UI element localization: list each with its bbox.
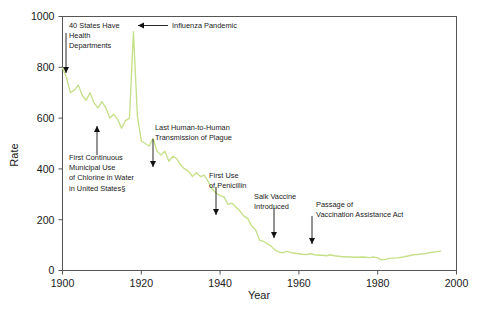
annotation-label: First Continuous: [69, 153, 123, 162]
annotation-label: Passage of: [316, 200, 354, 209]
annotation-layer: 40 States HaveHealthDepartmentsInfluenza…: [63, 21, 403, 244]
annotation-arrowhead: [271, 232, 277, 238]
y-tick-label: 800: [37, 61, 55, 73]
annotation-label: Introduced: [254, 202, 289, 211]
y-tick-label: 0: [49, 264, 55, 276]
y-tick-label: 400: [37, 163, 55, 175]
y-tick-label: 200: [37, 214, 55, 226]
annotation-label: Departments: [69, 41, 112, 50]
annotation-label: Transmission of Plague: [155, 133, 232, 142]
y-tick-label: 600: [37, 112, 55, 124]
annotation-label: First Use: [209, 171, 239, 180]
annotation-chlorine-water: First ContinuousMunicipal Useof Chlorine…: [69, 126, 135, 193]
chart-container: 02004006008001000 1900192019401960198020…: [0, 0, 487, 314]
annotation-label: of Penicillin: [209, 181, 246, 190]
annotation-label: Salk Vaccine: [254, 192, 296, 201]
x-tick-label: 1920: [130, 277, 154, 289]
x-axis: 190019201940196019802000: [51, 271, 469, 289]
x-tick-label: 2000: [445, 277, 469, 289]
data-series-line: [63, 32, 441, 260]
infectious-disease-mortality-chart: 02004006008001000 1900192019401960198020…: [0, 0, 487, 314]
annotation-arrowhead: [309, 238, 315, 244]
annotation-influenza-pandemic: Influenza Pandemic: [138, 21, 237, 30]
annotation-vaccination-assistance-act: Passage ofVaccination Assistance Act: [309, 200, 403, 244]
annotation-health-departments: 40 States HaveHealthDepartments: [63, 21, 120, 73]
x-tick-label: 1960: [287, 277, 311, 289]
annotation-label: Influenza Pandemic: [172, 21, 237, 30]
x-axis-title: Year: [248, 289, 271, 301]
annotation-label: Last Human-to-Human: [155, 123, 230, 132]
annotation-label: 40 States Have: [69, 21, 120, 30]
annotation-arrowhead: [150, 161, 156, 167]
annotation-label: of Chlorine in Water: [69, 173, 135, 182]
x-tick-label: 1980: [366, 277, 390, 289]
annotation-plague-transmission: Last Human-to-HumanTransmission of Plagu…: [150, 123, 232, 167]
annotation-label: Municipal Use: [69, 163, 115, 172]
y-axis-title: Rate: [8, 143, 20, 166]
x-tick-label: 1900: [51, 277, 75, 289]
annotation-penicillin: First Useof Penicillin: [209, 171, 246, 215]
annotation-label: Vaccination Assistance Act: [316, 210, 403, 219]
annotation-salk-vaccine: Salk VaccineIntroduced: [254, 192, 296, 238]
plot-frame: [63, 17, 457, 271]
annotation-label: in United States§: [69, 184, 125, 193]
annotation-arrowhead: [213, 209, 219, 215]
y-tick-label: 1000: [31, 10, 55, 22]
y-axis: 02004006008001000: [31, 10, 63, 276]
annotation-arrowhead: [94, 126, 100, 132]
x-tick-label: 1940: [208, 277, 232, 289]
annotation-arrowhead: [138, 23, 144, 29]
annotation-label: Health: [69, 31, 90, 40]
